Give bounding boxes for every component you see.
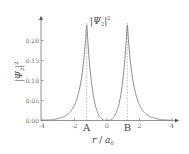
curve-label: |Ψ2|2 (90, 15, 110, 27)
y-tick-label: 0.20 (26, 37, 40, 44)
x-tick-label: -2 (72, 122, 78, 129)
y-axis-label: |Ψ2|2 (13, 62, 25, 82)
x-tick-label: 4 (170, 122, 174, 129)
probability-density-curve (42, 25, 172, 120)
curve-label-sup: 2 (107, 15, 110, 21)
x-tick-label: 0 (105, 122, 109, 129)
x-tick-label: 2 (138, 122, 142, 129)
x-label-sub: 0 (110, 140, 113, 146)
x-tick-label: -4 (39, 122, 45, 129)
y-tick-label: 0.15 (26, 57, 40, 64)
point-a-label: A (82, 122, 91, 133)
x-ticks: -4-2024 (39, 118, 174, 129)
x-label-slash: / (96, 135, 105, 145)
x-axis-label: r / a0 (92, 135, 114, 146)
point-b-label: B (124, 122, 131, 133)
y-tick-label: 0.10 (26, 77, 40, 84)
y-tick-label: 0.05 (26, 97, 40, 104)
y-label-sup: 2 (13, 62, 19, 65)
y-tick-label: 0.00 (26, 117, 40, 124)
chart: 0.000.050.100.150.20 -4-2024 A B |Ψ2|2 |… (0, 0, 189, 154)
